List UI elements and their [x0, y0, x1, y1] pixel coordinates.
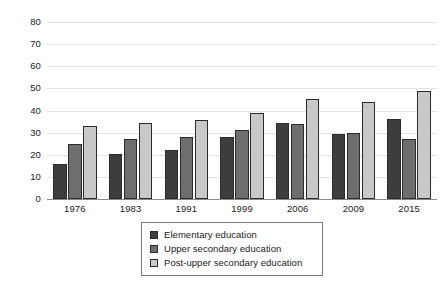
- legend-item-label: Elementary education: [164, 230, 257, 240]
- bar: [53, 164, 67, 199]
- x-axis-tick-label: 1976: [64, 202, 86, 216]
- legend-swatch-icon: [150, 259, 158, 267]
- y-axis: 01020304050607080: [0, 22, 41, 199]
- legend-swatch-icon: [150, 245, 158, 253]
- bar-group: [387, 22, 431, 199]
- bar: [124, 139, 138, 199]
- legend-item: Post-upper secondary education: [150, 256, 315, 270]
- bars-layer: [47, 22, 437, 199]
- bar: [180, 137, 194, 199]
- bar: [402, 139, 416, 199]
- bar: [387, 119, 401, 199]
- y-axis-tick-label: 10: [30, 172, 41, 182]
- bar: [220, 137, 234, 199]
- bar-group: [220, 22, 264, 199]
- y-axis-tick-label: 80: [30, 17, 41, 27]
- x-axis: 1976198319911999200620092015: [47, 202, 437, 218]
- legend-swatch-icon: [150, 231, 158, 239]
- x-axis-tick-label: 1991: [176, 202, 198, 216]
- chart-legend: Elementary educationUpper secondary educ…: [141, 222, 323, 276]
- y-axis-tick-label: 60: [30, 62, 41, 72]
- legend-item: Upper secondary education: [150, 242, 315, 256]
- legend-item-label: Upper secondary education: [164, 244, 281, 254]
- bar: [276, 123, 290, 199]
- axis-baseline: [47, 199, 437, 200]
- bar: [165, 150, 179, 199]
- y-axis-tick-label: 40: [30, 106, 41, 116]
- y-axis-tick-label: 20: [30, 150, 41, 160]
- bar: [83, 126, 97, 199]
- bar: [139, 123, 153, 199]
- bar-group: [109, 22, 153, 199]
- bar: [109, 154, 123, 199]
- bar: [250, 113, 264, 199]
- y-axis-tick-label: 50: [30, 84, 41, 94]
- legend-item-label: Post-upper secondary education: [164, 258, 302, 268]
- bar: [362, 102, 376, 199]
- x-axis-tick-label: 1983: [120, 202, 142, 216]
- y-axis-tick-label: 0: [36, 194, 41, 204]
- bar: [235, 130, 249, 199]
- y-axis-tick-label: 30: [30, 128, 41, 138]
- plot-area: [47, 22, 437, 199]
- x-axis-tick-label: 2015: [398, 202, 420, 216]
- bar: [291, 124, 305, 199]
- legend-item: Elementary education: [150, 228, 315, 242]
- bar-group: [276, 22, 320, 199]
- bar: [332, 134, 346, 199]
- bar-group: [165, 22, 209, 199]
- bar: [347, 133, 361, 199]
- bar: [306, 99, 320, 199]
- bar-group: [53, 22, 97, 199]
- x-axis-tick-label: 2006: [287, 202, 309, 216]
- x-axis-tick-label: 1999: [231, 202, 253, 216]
- bar: [195, 120, 209, 199]
- bar: [417, 91, 431, 199]
- bar-chart-figure: 01020304050607080 1976198319911999200620…: [0, 0, 447, 293]
- x-axis-tick-label: 2009: [343, 202, 365, 216]
- bar: [68, 144, 82, 199]
- bar-group: [332, 22, 376, 199]
- y-axis-tick-label: 70: [30, 39, 41, 49]
